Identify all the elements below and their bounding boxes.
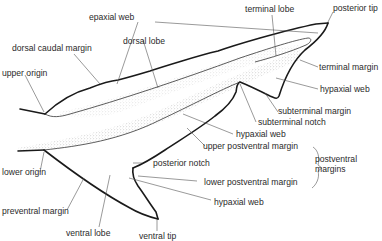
label-hypaxial-web-lower: hypaxial web — [214, 197, 264, 207]
fin-drawing: epaxial web dorsal lobe dorsal caudal ma… — [0, 0, 382, 241]
label-dorsal-caudal-margin: dorsal caudal margin — [12, 43, 92, 53]
label-upper-origin: upper origin — [2, 68, 48, 78]
label-dorsal-lobe: dorsal lobe — [123, 36, 165, 46]
lower-origin-stub — [18, 150, 44, 151]
label-hypaxial-web-upper: hypaxial web — [320, 84, 370, 94]
label-lower-postventral-margin: lower postventral margin — [204, 177, 298, 187]
label-ventral-lobe: ventral lobe — [66, 228, 111, 238]
label-terminal-margin: terminal margin — [319, 62, 378, 72]
label-upper-postventral-margin: upper postventral margin — [203, 141, 298, 151]
upper-origin-stub — [20, 109, 45, 114]
label-preventral-margin: preventral margin — [2, 206, 69, 216]
label-postventral-margins-2: margins — [315, 164, 346, 174]
label-terminal-lobe: terminal lobe — [245, 4, 294, 14]
label-posterior-tip: posterior tip — [333, 3, 378, 13]
label-subterminal-notch: subterminal notch — [258, 117, 326, 127]
label-ventral-tip: ventral tip — [139, 231, 176, 241]
caudal-fin-diagram: epaxial web dorsal lobe dorsal caudal ma… — [0, 0, 382, 241]
label-posterior-notch: posterior notch — [153, 158, 210, 168]
labels: epaxial web dorsal lobe dorsal caudal ma… — [2, 3, 378, 241]
label-epaxial-web: epaxial web — [89, 12, 135, 22]
label-subterminal-margin: subterminal margin — [278, 106, 351, 116]
label-lower-origin: lower origin — [2, 167, 46, 177]
label-postventral-margins-1: postventral — [315, 154, 357, 164]
label-hypaxial-web-mid: hypaxial web — [236, 129, 286, 139]
